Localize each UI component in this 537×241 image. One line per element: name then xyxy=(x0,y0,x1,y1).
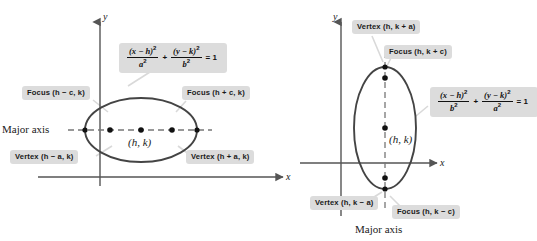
right-eq-fraction-1: (x − h)2 b2 xyxy=(438,91,469,113)
left-y-axis-label: y xyxy=(103,12,107,22)
right-eq-den2-exp: 2 xyxy=(498,102,501,108)
right-eq-num1-exp: 2 xyxy=(464,89,467,95)
left-vertex-left-label: Vertex (h − a, k) xyxy=(10,150,78,164)
right-eq-num1: (x − h) xyxy=(440,90,464,100)
right-vertex-point-bottom xyxy=(382,186,387,191)
right-focus-top-label: Focus (h, k + c) xyxy=(384,45,452,59)
left-eq-den2-exp: 2 xyxy=(187,58,190,64)
left-eq-num2-exp: 2 xyxy=(196,45,199,51)
right-vertex-top-label: Vertex (h, k + a) xyxy=(352,20,420,34)
right-eq-den1-exp: 2 xyxy=(454,102,457,108)
right-focus-point-top xyxy=(382,75,388,81)
right-center-point xyxy=(382,125,388,131)
left-focus-point-left xyxy=(107,127,113,133)
left-eq-equals: = 1 xyxy=(206,54,217,62)
left-focus-left-label: Focus (h − c, k) xyxy=(22,86,90,100)
right-y-axis-label: y xyxy=(333,12,337,22)
right-x-axis-label: x xyxy=(440,158,444,168)
left-eq-num1-exp: 2 xyxy=(153,45,156,51)
left-focus-right-label: Focus (h + c, k) xyxy=(182,86,250,100)
right-center-label: (h, k) xyxy=(389,134,412,145)
left-eq-den1-exp: 2 xyxy=(143,58,146,64)
left-focus-point-right xyxy=(169,127,175,133)
right-vertex-bottom-label: Vertex (h, k − a) xyxy=(310,196,378,210)
left-x-axis-label: x xyxy=(286,172,290,182)
left-vertex-point-left xyxy=(82,127,87,132)
left-eq-fraction-2: (y − k)2 b2 xyxy=(171,47,201,69)
left-eq-fraction-1: (x − h)2 a2 xyxy=(127,47,158,69)
left-ellipse-equation: (x − h)2 a2 + (y − k)2 b2 = 1 xyxy=(119,43,227,73)
right-focus-bottom-label: Focus (h, k − c) xyxy=(392,205,460,219)
left-center-label: (h, k) xyxy=(128,137,151,148)
left-eq-num1: (x − h) xyxy=(129,46,153,56)
right-eq-fraction-2: (y − k)2 a2 xyxy=(482,91,512,113)
left-center-point xyxy=(138,127,144,133)
left-eq-operator: + xyxy=(162,54,167,62)
right-eq-operator: + xyxy=(473,98,478,106)
left-major-axis-label: Major axis xyxy=(2,124,49,135)
right-ellipse-equation: (x − h)2 b2 + (y − k)2 a2 = 1 xyxy=(430,87,537,117)
left-eq-num2: (y − k) xyxy=(173,46,196,56)
right-eq-equals: = 1 xyxy=(517,98,528,106)
left-vertex-right-label: Vertex (h + a, k) xyxy=(186,150,254,164)
left-vertex-point-right xyxy=(194,127,199,132)
right-eq-num2-exp: 2 xyxy=(507,89,510,95)
right-major-axis-label: Major axis xyxy=(355,224,402,235)
figure-canvas: y x Major axis (h, k) Focus (h − c, k) F… xyxy=(0,0,537,241)
right-vertex-point-top xyxy=(382,64,387,69)
right-focus-point-bottom xyxy=(382,175,388,181)
right-eq-num2: (y − k) xyxy=(484,90,507,100)
